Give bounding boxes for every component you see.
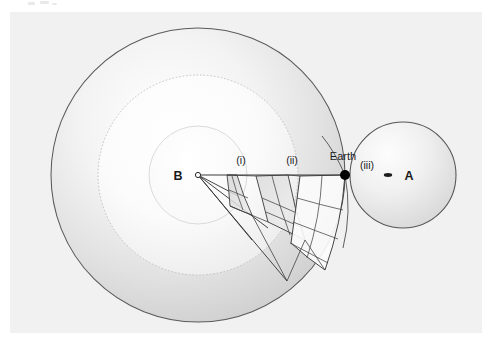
label-shell-i: (i) — [236, 154, 245, 166]
label-shell-iii: (iii) — [360, 159, 374, 171]
label-point-b: B — [173, 169, 182, 183]
label-earth: Earth — [330, 150, 356, 162]
point-earth-marker — [340, 170, 350, 180]
spherical-shells-diagram: B (i) (ii) Earth (iii) A — [0, 0, 496, 352]
figure-container: B (i) (ii) Earth (iii) A — [0, 0, 496, 352]
label-shell-ii: (ii) — [286, 154, 298, 166]
sphere-a-center-marker — [384, 173, 392, 177]
label-sphere-a: A — [404, 169, 413, 183]
point-b-marker — [195, 172, 200, 177]
sphere-a — [350, 122, 456, 228]
